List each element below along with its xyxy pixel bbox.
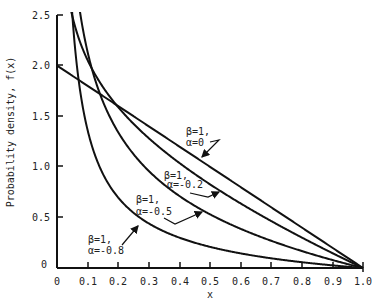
annotation-alpha-neg0.5: β=1, α=-0.5 (136, 194, 202, 224)
curve-alpha-neg0.5 (58, 0, 363, 268)
y-tick-2.5: 2.5 (32, 10, 50, 21)
x-tick-0.1: 0.1 (79, 276, 97, 287)
annotation-alpha-0: β=1, α=0 (186, 126, 219, 157)
annot-label-line2: α=-0.2 (167, 179, 203, 190)
annotation-alpha-neg0.2: β=1, α=-0.2 (164, 170, 219, 197)
annotation-alpha-neg0.8: β=1, α=-0.8 (88, 226, 138, 256)
y-axis-title: Probability density, f(x) (5, 57, 16, 208)
x-tick-labels: 0 0.1 0.2 0.3 0.4 0.5 0.6 0.7 0.8 0.9 1.… (54, 276, 372, 287)
annot-label-line2: α=-0.5 (136, 206, 172, 217)
y-tick-1.0: 1.0 (32, 161, 50, 172)
y-tick-0: 0 (41, 259, 47, 270)
curve-alpha-neg0.8 (58, 0, 363, 268)
x-tick-0.3: 0.3 (140, 276, 158, 287)
x-tick-0.2: 0.2 (109, 276, 127, 287)
annot-label-line2: α=-0.8 (88, 245, 124, 256)
x-tick-0.7: 0.7 (262, 276, 280, 287)
y-tick-1.5: 1.5 (32, 111, 50, 122)
x-axis-title: x (207, 289, 213, 300)
curve-alpha-neg0.2 (58, 0, 363, 268)
annot-label-line2: α=0 (186, 137, 204, 148)
y-tick-2.0: 2.0 (32, 60, 50, 71)
beta-density-chart: 2.5 2.0 1.5 1.0 0.5 0 0 0.1 0.2 0.3 0.4 … (0, 0, 379, 305)
y-tick-labels: 2.5 2.0 1.5 1.0 0.5 0 (32, 10, 50, 270)
x-tick-0.6: 0.6 (232, 276, 250, 287)
y-tick-0.5: 0.5 (32, 212, 50, 223)
x-tick-0.5: 0.5 (201, 276, 219, 287)
x-tick-0.8: 0.8 (293, 276, 311, 287)
annot-label-line1: β=1, (136, 194, 160, 205)
annot-label-line1: β=1, (88, 234, 112, 245)
x-tick-0: 0 (54, 276, 60, 287)
x-tick-1.0: 1.0 (354, 276, 372, 287)
x-tick-0.4: 0.4 (171, 276, 189, 287)
x-tick-0.9: 0.9 (324, 276, 342, 287)
annot-label-line1: β=1, (186, 126, 210, 137)
